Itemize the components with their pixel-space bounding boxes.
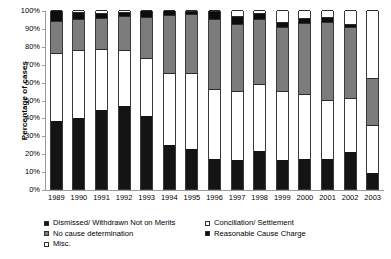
- bar-segment: [254, 10, 265, 13]
- bar-column[interactable]: [276, 11, 289, 190]
- bar-column[interactable]: [50, 11, 63, 190]
- bar-segment: [232, 16, 243, 24]
- bar-segment: [367, 173, 378, 189]
- bar-segment: [232, 91, 243, 160]
- bar-segment: [299, 18, 310, 22]
- bar-segment: [254, 84, 265, 151]
- legend-item-label: Reasonable Cause Charge: [214, 229, 306, 240]
- bar-segment: [345, 27, 356, 98]
- bar-segment: [322, 17, 333, 21]
- bar-segment: [277, 10, 288, 22]
- bar-column[interactable]: [366, 11, 379, 190]
- y-tick-label: 10%: [25, 168, 40, 176]
- bar-column[interactable]: [208, 11, 221, 190]
- y-tick-label: 20%: [25, 150, 40, 158]
- bar-segment: [164, 145, 175, 189]
- bar-segment: [186, 149, 197, 189]
- x-tick-label: 2003: [360, 193, 386, 202]
- legend-item[interactable]: Dismissed/ Withdrawn Not on Merits: [44, 218, 175, 229]
- x-axis-line: [45, 190, 384, 191]
- legend-item-label: Misc.: [53, 239, 71, 250]
- bar-column[interactable]: [140, 11, 153, 190]
- legend-swatch-icon: [205, 221, 210, 226]
- legend-item-label: Conciliation/ Settlement: [214, 218, 294, 229]
- bar-column[interactable]: [95, 11, 108, 190]
- bar-column[interactable]: [118, 11, 131, 190]
- bar-segment: [367, 125, 378, 173]
- bar-segment: [209, 89, 220, 160]
- bar-segment: [186, 73, 197, 149]
- bar-segment: [51, 121, 62, 189]
- y-tick: [42, 190, 45, 191]
- y-tick-label: 90%: [25, 25, 40, 33]
- bar-segment: [73, 50, 84, 118]
- bar-segment: [96, 49, 107, 110]
- bar-segment: [51, 53, 62, 121]
- bar-segment: [141, 10, 152, 17]
- bar-segment: [299, 159, 310, 189]
- legend-item[interactable]: No cause determination: [44, 229, 175, 240]
- bar-column[interactable]: [231, 11, 244, 190]
- bar-segment: [96, 110, 107, 189]
- bar-segment: [209, 19, 220, 89]
- bar-segment: [96, 18, 107, 49]
- y-tick-label: 70%: [25, 61, 40, 69]
- bar-segment: [51, 21, 62, 53]
- bar-segment: [209, 11, 220, 19]
- bar-segment: [186, 11, 197, 15]
- y-tick-label: 30%: [25, 133, 40, 141]
- legend-item[interactable]: Conciliation/ Settlement: [205, 218, 306, 229]
- bar-segment: [119, 106, 130, 189]
- y-tick-label: 50%: [25, 97, 40, 105]
- y-tick-label: 0%: [29, 186, 40, 194]
- bar-group: [45, 11, 384, 190]
- bar-segment: [141, 17, 152, 58]
- bar-segment: [96, 10, 107, 13]
- bar-segment: [119, 12, 130, 16]
- bar-segment: [254, 151, 265, 189]
- legend-item[interactable]: Misc.: [44, 239, 175, 250]
- bar-segment: [73, 118, 84, 189]
- bar-column[interactable]: [321, 11, 334, 190]
- legend-item-label: Dismissed/ Withdrawn Not on Merits: [53, 218, 175, 229]
- bar-segment: [299, 94, 310, 158]
- bar-segment: [73, 19, 84, 50]
- legend-item[interactable]: Reasonable Cause Charge: [205, 229, 306, 240]
- bar-segment: [254, 13, 265, 19]
- bar-segment: [322, 10, 333, 17]
- bar-segment: [254, 19, 265, 84]
- bar-column[interactable]: [344, 11, 357, 190]
- bar-column[interactable]: [185, 11, 198, 190]
- plot-area: 100%90%80%70%60%50%40%30%20%10%0%: [45, 11, 384, 190]
- bar-column[interactable]: [298, 11, 311, 190]
- bar-column[interactable]: [72, 11, 85, 190]
- stacked-bar-chart: Percentage of cases 100%90%80%70%60%50%4…: [0, 0, 391, 259]
- bar-column[interactable]: [163, 11, 176, 190]
- bar-segment: [232, 24, 243, 91]
- bar-segment: [277, 160, 288, 189]
- bar-segment: [367, 10, 378, 78]
- bar-segment: [232, 10, 243, 16]
- y-tick-label: 80%: [25, 43, 40, 51]
- bar-segment: [186, 10, 197, 11]
- bar-segment: [119, 16, 130, 50]
- legend-column-left: Dismissed/ Withdrawn Not on MeritsNo cau…: [44, 218, 175, 250]
- legend-swatch-icon: [205, 231, 210, 236]
- bar-segment: [73, 12, 84, 19]
- bar-segment: [277, 91, 288, 161]
- bar-segment: [141, 58, 152, 115]
- bar-segment: [232, 160, 243, 189]
- bar-segment: [51, 10, 62, 21]
- legend-item-label: No cause determination: [53, 229, 133, 240]
- bar-segment: [345, 10, 356, 24]
- bar-segment: [345, 152, 356, 189]
- bar-segment: [186, 14, 197, 72]
- legend-swatch-icon: [44, 231, 49, 236]
- bar-segment: [119, 50, 130, 105]
- bar-column[interactable]: [253, 11, 266, 190]
- bar-segment: [96, 13, 107, 18]
- bar-segment: [299, 23, 310, 95]
- bar-segment: [299, 10, 310, 18]
- x-axis-labels: 1989199019911992199319941995199619971998…: [45, 193, 384, 205]
- legend-column-right: Conciliation/ SettlementReasonable Cause…: [205, 218, 306, 239]
